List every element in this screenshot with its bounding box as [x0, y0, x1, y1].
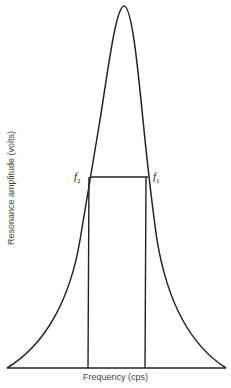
resonance-curve-diagram — [0, 0, 231, 388]
f2-label: f2 — [74, 170, 81, 185]
f1-label: f1 — [153, 170, 160, 185]
f1-vertical-line — [145, 177, 146, 368]
f2-vertical-line — [88, 177, 89, 368]
x-axis-label: Frequency (cps) — [0, 372, 231, 382]
f1-label-sub: 1 — [156, 177, 160, 185]
f2-label-sub: 2 — [77, 177, 81, 185]
y-axis-label: Resonance amplitude (volts) — [6, 131, 16, 245]
resonance-curve — [7, 6, 226, 368]
